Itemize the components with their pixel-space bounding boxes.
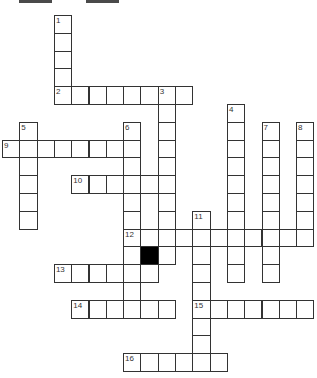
crossword-cell[interactable] <box>123 175 141 194</box>
crossword-cell[interactable] <box>140 229 158 248</box>
crossword-cell[interactable] <box>140 175 158 194</box>
crossword-cell[interactable] <box>71 264 89 283</box>
crossword-cell[interactable] <box>227 300 245 319</box>
crossword-cell[interactable] <box>158 193 176 212</box>
crossword-cell[interactable] <box>140 86 158 105</box>
crossword-cell[interactable] <box>158 140 176 159</box>
crossword-cell[interactable] <box>175 86 193 105</box>
crossword-cell[interactable] <box>262 175 280 194</box>
crossword-cell[interactable] <box>140 353 158 372</box>
crossword-cell[interactable] <box>210 229 228 248</box>
crossword-cell[interactable] <box>140 300 158 319</box>
crossword-cell[interactable] <box>158 353 176 372</box>
crossword-cell[interactable] <box>244 300 262 319</box>
crossword-cell[interactable] <box>89 175 107 194</box>
crossword-cell[interactable] <box>123 140 141 159</box>
crossword-cell[interactable] <box>192 282 210 301</box>
crossword-cell[interactable] <box>37 140 55 159</box>
crossword-cell[interactable] <box>54 140 72 159</box>
crossword-cell[interactable] <box>123 86 141 105</box>
crossword-cell[interactable] <box>158 122 176 141</box>
crossword-cell[interactable] <box>19 140 37 159</box>
crossword-cell[interactable] <box>123 157 141 176</box>
crossword-cell[interactable] <box>227 140 245 159</box>
crossword-cell[interactable] <box>89 140 107 159</box>
crossword-cell[interactable] <box>89 86 107 105</box>
crossword-cell[interactable]: 15 <box>192 300 210 319</box>
crossword-cell[interactable] <box>192 353 210 372</box>
crossword-cell[interactable] <box>123 211 141 230</box>
crossword-cell[interactable] <box>192 246 210 265</box>
crossword-cell[interactable] <box>19 193 37 212</box>
crossword-cell[interactable] <box>158 157 176 176</box>
crossword-cell[interactable] <box>227 246 245 265</box>
crossword-cell[interactable] <box>262 157 280 176</box>
crossword-cell[interactable] <box>192 229 210 248</box>
crossword-cell[interactable] <box>158 246 176 265</box>
crossword-cell[interactable] <box>296 140 314 159</box>
crossword-cell[interactable]: 16 <box>123 353 141 372</box>
crossword-cell[interactable] <box>296 175 314 194</box>
crossword-cell[interactable] <box>227 175 245 194</box>
crossword-cell[interactable] <box>279 229 297 248</box>
crossword-cell[interactable] <box>227 193 245 212</box>
crossword-cell[interactable]: 4 <box>227 104 245 123</box>
crossword-cell[interactable] <box>262 300 280 319</box>
crossword-cell[interactable]: 14 <box>71 300 89 319</box>
crossword-cell[interactable] <box>106 140 124 159</box>
crossword-cell[interactable] <box>192 318 210 337</box>
crossword-cell[interactable] <box>262 140 280 159</box>
crossword-cell[interactable] <box>262 193 280 212</box>
crossword-cell[interactable] <box>89 264 107 283</box>
crossword-cell[interactable] <box>296 229 314 248</box>
crossword-cell[interactable] <box>106 86 124 105</box>
crossword-cell[interactable] <box>227 122 245 141</box>
crossword-cell[interactable] <box>296 193 314 212</box>
crossword-cell[interactable]: 7 <box>262 122 280 141</box>
crossword-cell[interactable] <box>296 211 314 230</box>
crossword-cell[interactable] <box>262 211 280 230</box>
crossword-cell[interactable]: 12 <box>123 229 141 248</box>
crossword-cell[interactable] <box>106 300 124 319</box>
crossword-cell[interactable] <box>158 211 176 230</box>
crossword-cell[interactable] <box>71 140 89 159</box>
crossword-cell[interactable] <box>106 264 124 283</box>
crossword-cell[interactable] <box>227 264 245 283</box>
crossword-cell[interactable] <box>54 51 72 70</box>
crossword-cell[interactable] <box>19 175 37 194</box>
crossword-cell[interactable] <box>279 300 297 319</box>
crossword-cell[interactable]: 1 <box>54 15 72 34</box>
crossword-cell[interactable] <box>227 229 245 248</box>
crossword-cell[interactable] <box>54 68 72 87</box>
crossword-cell[interactable]: 3 <box>158 86 176 105</box>
crossword-cell[interactable]: 9 <box>2 140 20 159</box>
crossword-cell[interactable]: 10 <box>71 175 89 194</box>
crossword-cell[interactable] <box>244 229 262 248</box>
crossword-cell[interactable] <box>210 300 228 319</box>
crossword-cell[interactable] <box>123 282 141 301</box>
crossword-cell[interactable]: 6 <box>123 122 141 141</box>
crossword-cell[interactable]: 5 <box>19 122 37 141</box>
crossword-cell[interactable] <box>158 175 176 194</box>
crossword-cell[interactable] <box>210 353 228 372</box>
crossword-cell[interactable] <box>296 300 314 319</box>
crossword-cell[interactable] <box>54 33 72 52</box>
crossword-cell[interactable] <box>123 193 141 212</box>
crossword-cell[interactable]: 13 <box>54 264 72 283</box>
crossword-cell[interactable] <box>296 157 314 176</box>
crossword-cell[interactable] <box>89 300 107 319</box>
crossword-cell[interactable] <box>123 246 141 265</box>
crossword-cell[interactable] <box>19 157 37 176</box>
crossword-cell[interactable] <box>140 264 158 283</box>
crossword-cell[interactable] <box>158 104 176 123</box>
crossword-cell[interactable] <box>192 264 210 283</box>
crossword-cell[interactable] <box>106 175 124 194</box>
crossword-cell[interactable] <box>175 229 193 248</box>
crossword-cell[interactable] <box>227 157 245 176</box>
crossword-cell[interactable] <box>192 335 210 354</box>
crossword-cell[interactable] <box>262 246 280 265</box>
crossword-cell[interactable] <box>158 229 176 248</box>
crossword-cell[interactable]: 11 <box>192 211 210 230</box>
crossword-cell[interactable] <box>123 264 141 283</box>
crossword-cell[interactable] <box>19 211 37 230</box>
